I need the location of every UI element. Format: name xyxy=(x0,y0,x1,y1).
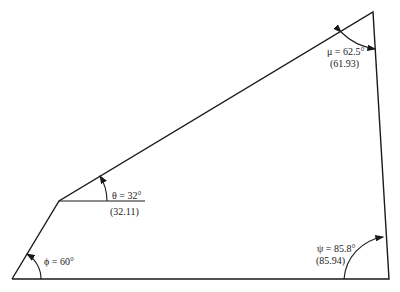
phi-arc xyxy=(27,254,41,279)
theta-arc xyxy=(100,176,107,201)
quadrilateral-diagram: ϕ = 60° θ = 32° (32.11) μ = 62.5° (61.93… xyxy=(0,0,400,292)
theta-computed: (32.11) xyxy=(110,206,139,217)
psi-label: ψ = 85.8° xyxy=(317,243,355,254)
mu-computed: (61.93) xyxy=(330,58,359,69)
mu-label: μ = 62.5° xyxy=(327,46,365,57)
phi-label: ϕ = 60° xyxy=(44,256,74,267)
psi-computed: (85.94) xyxy=(316,255,345,266)
theta-label: θ = 32° xyxy=(112,190,141,201)
